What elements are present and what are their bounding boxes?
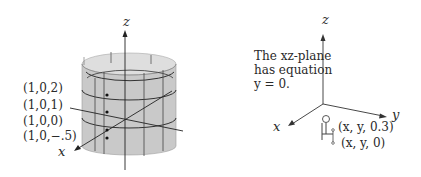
right-x-axis-label: x bbox=[273, 119, 280, 134]
point-label-1-0-neg-half: (1,0,−.5) bbox=[23, 129, 77, 143]
point-label-1-0-0: (1,0,0) bbox=[23, 114, 63, 128]
point-label-1-0-1: (1,0,1) bbox=[23, 98, 63, 112]
right-z-axis-label: z bbox=[322, 12, 329, 27]
point-projection-marker bbox=[322, 116, 334, 145]
xz-plane-note-line2: has equation bbox=[254, 63, 332, 77]
point-label-x-y-0: (x, y, 0) bbox=[341, 136, 385, 150]
figure-stage: z x (1,0,2) (1,0,1) (1,0,0) (1,0,−.5) z … bbox=[0, 0, 421, 177]
point-label-1-0-2: (1,0,2) bbox=[23, 81, 63, 95]
xz-plane-note-line3: y = 0. bbox=[254, 77, 290, 91]
right-axes bbox=[288, 34, 387, 126]
xz-plane-note-line1: The xz-plane bbox=[254, 49, 331, 63]
cylinder bbox=[82, 52, 176, 156]
left-x-axis-label: x bbox=[58, 144, 65, 159]
left-z-axis-label: z bbox=[123, 14, 130, 29]
point-label-x-y-0.3: (x, y, 0.3) bbox=[338, 120, 394, 134]
